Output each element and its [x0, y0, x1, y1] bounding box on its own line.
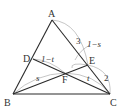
label-AE-3: 3: [76, 36, 81, 46]
label-B: B: [4, 97, 11, 108]
label-EC-2: 2: [104, 73, 109, 83]
label-D: D: [23, 53, 30, 64]
triangle-diagram: A B C D E F 3 2 1−s 1−t s t: [0, 0, 123, 111]
label-s: s: [36, 73, 40, 83]
label-E: E: [89, 55, 95, 66]
label-C: C: [110, 97, 117, 108]
label-1-minus-t: 1−t: [41, 54, 55, 64]
label-1-minus-s: 1−s: [87, 39, 102, 49]
label-F: F: [62, 74, 68, 85]
segment-DC: [33, 59, 110, 94]
label-A: A: [48, 8, 56, 19]
side-AC: [52, 20, 110, 94]
segment-BE: [13, 65, 88, 94]
